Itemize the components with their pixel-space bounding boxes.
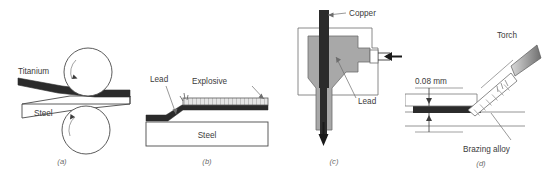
titanium-label: Titanium	[18, 67, 49, 76]
torch-icon	[511, 45, 541, 76]
lead-label: Lead	[150, 75, 169, 84]
lead-label: Lead	[358, 97, 377, 106]
dimension-arrow-head-down	[426, 115, 432, 121]
explosive-label: Explosive	[192, 77, 227, 86]
panel-b-caption: (b)	[202, 157, 212, 166]
brazing-alloy-label: Brazing alloy	[463, 145, 511, 154]
upper-member	[405, 94, 477, 106]
panel-a-caption: (a)	[57, 157, 67, 166]
panel-a-roll-bonding: Titanium Steel (a)	[0, 0, 136, 180]
copper-core-upper	[319, 10, 329, 88]
figure-joining-processes: Titanium Steel (a) Steel	[0, 0, 544, 180]
steel-label: Steel	[34, 109, 53, 118]
copper-label: Copper	[349, 9, 376, 18]
roller-top-icon	[64, 48, 112, 96]
gap-dimension-label: 0.08 mm	[415, 77, 447, 86]
panel-c-caption: (c)	[330, 157, 339, 166]
steel-label: Steel	[198, 131, 217, 140]
panel-d-torch-brazing: 0.08 mm Torch Brazing alloy (d)	[405, 0, 544, 180]
brazing-alloy-leader-line	[491, 113, 511, 140]
feed-port	[370, 50, 378, 63]
panel-c-extrusion-cladding: Copper Lead (c)	[286, 0, 405, 180]
panel-d-caption: (d)	[476, 159, 486, 168]
torch-label: Torch	[497, 31, 517, 40]
panel-b-explosive-welding: Steel Lead Explosive (b)	[136, 0, 286, 180]
lead-sheet	[146, 105, 268, 121]
explosive-layer	[183, 98, 268, 105]
extrusion-arrow-head	[319, 134, 329, 146]
